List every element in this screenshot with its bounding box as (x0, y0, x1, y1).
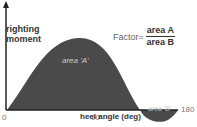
fraction: area A area B (146, 25, 175, 48)
x-axis-label: heel angle (deg) (80, 112, 141, 121)
area-a-region (7, 38, 140, 110)
factor-prefix: Factor= (113, 32, 144, 42)
area-a-label: area 'A' (62, 56, 89, 65)
y-axis-arrow-icon (3, 1, 9, 8)
y-axis-label-line2: moment (6, 34, 41, 44)
factor-formula: Factor= area A area B (113, 25, 175, 48)
y-axis-label: righting moment (6, 24, 41, 44)
area-b-label: area 'B' (148, 105, 171, 112)
fraction-numerator: area A (146, 25, 175, 37)
tick-0: 0 (2, 113, 6, 122)
y-axis-label-line1: righting (6, 24, 41, 34)
fraction-denominator: area B (147, 37, 175, 48)
tick-180: 180 (181, 105, 194, 114)
